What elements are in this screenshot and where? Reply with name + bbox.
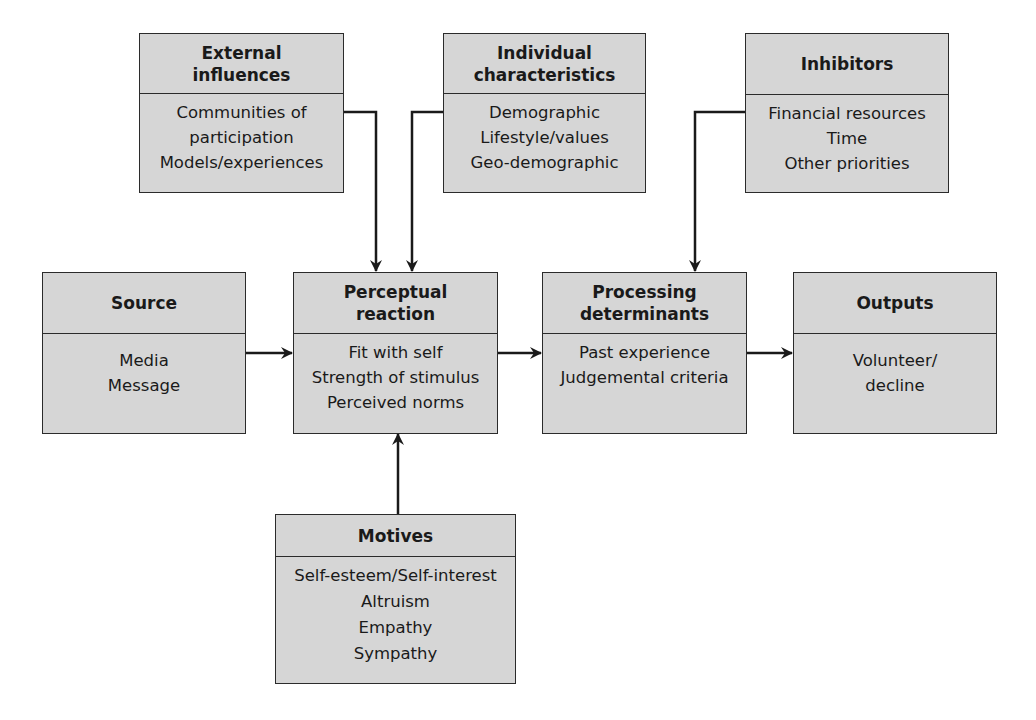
item: Perceived norms [327,390,464,415]
title-line: Outputs [856,292,933,314]
item: Time [827,126,867,151]
box-items: Volunteer/ decline [794,334,996,433]
item: Altruism [361,589,430,615]
item: Geo-demographic [470,150,618,175]
arrow-inhibitors-to-processing [695,112,745,271]
item: Demographic [489,100,600,125]
item: Past experience [579,340,710,365]
item: Strength of stimulus [312,365,480,390]
item: decline [865,373,924,398]
title-line: determinants [580,303,709,325]
title-line: External [201,42,281,64]
box-items: Communities of participation Models/expe… [140,94,343,192]
item: Volunteer/ [853,348,938,373]
title-line: Motives [358,525,433,547]
box-title: Outputs [794,273,996,334]
title-line: reaction [356,303,435,325]
box-title: Processing determinants [543,273,746,334]
item: Financial resources [768,101,925,126]
item: participation [189,125,293,150]
box-items: Financial resources Time Other prioritie… [746,95,948,192]
box-items: Media Message [43,334,245,433]
item: Lifestyle/values [480,125,609,150]
item: Sympathy [354,641,438,667]
box-motives: Motives Self-esteem/Self-interest Altrui… [275,514,516,684]
box-outputs: Outputs Volunteer/ decline [793,272,997,434]
arrow-external-to-perceptual [343,112,376,271]
title-line: Processing [592,281,696,303]
title-line: Perceptual [344,281,448,303]
box-title: Motives [276,515,515,557]
box-inhibitors: Inhibitors Financial resources Time Othe… [745,33,949,193]
title-line: influences [193,64,291,86]
item: Self-esteem/Self-interest [294,563,497,589]
box-title: External influences [140,34,343,94]
box-title: Source [43,273,245,334]
box-title: Individual characteristics [444,34,645,94]
box-external-influences: External influences Communities of parti… [139,33,344,193]
item: Other priorities [784,151,909,176]
box-items: Past experience Judgemental criteria [543,334,746,433]
item: Media [119,348,169,373]
item: Message [108,373,180,398]
box-individual-characteristics: Individual characteristics Demographic L… [443,33,646,193]
title-line: characteristics [474,64,616,86]
title-line: Source [111,292,177,314]
item: Judgemental criteria [560,365,728,390]
box-processing-determinants: Processing determinants Past experience … [542,272,747,434]
box-items: Demographic Lifestyle/values Geo-demogra… [444,94,645,192]
title-line: Individual [497,42,592,64]
box-items: Fit with self Strength of stimulus Perce… [294,334,497,433]
item: Models/experiences [160,150,324,175]
arrow-individual-to-perceptual [412,112,443,271]
box-source: Source Media Message [42,272,246,434]
box-perceptual-reaction: Perceptual reaction Fit with self Streng… [293,272,498,434]
title-line: Inhibitors [801,53,894,75]
item: Communities of [176,100,306,125]
box-title: Perceptual reaction [294,273,497,334]
box-items: Self-esteem/Self-interest Altruism Empat… [276,557,515,683]
item: Empathy [359,615,433,641]
box-title: Inhibitors [746,34,948,95]
item: Fit with self [349,340,443,365]
